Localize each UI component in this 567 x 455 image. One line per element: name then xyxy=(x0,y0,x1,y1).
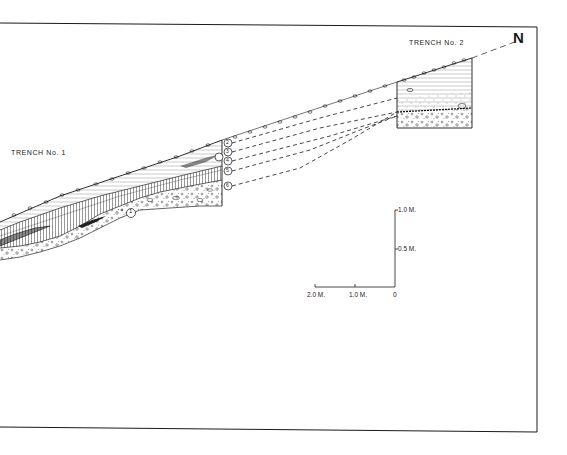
scale-label-v-05m: 0.5 M. xyxy=(398,245,416,252)
trench-1-section xyxy=(0,140,222,260)
scale-label-1m: 1.0 M. xyxy=(349,291,367,298)
layer-number-5: 5 xyxy=(226,167,229,173)
layer-number-3: 3 xyxy=(226,148,229,154)
scale-label-v-1m: 1.0 M. xyxy=(398,206,416,213)
layer-number-2: 2 xyxy=(226,139,229,145)
trench-1-label: TRENCH No. 1 xyxy=(11,149,66,156)
layer-number-1: 1 xyxy=(129,208,132,214)
north-arrow-icon: N xyxy=(513,29,524,46)
layer-marker-3b xyxy=(215,153,223,161)
layer-number-4: 4 xyxy=(226,157,229,163)
scale-label-2m: 2.0 M. xyxy=(307,291,325,298)
section-drawing xyxy=(0,0,567,455)
scale-bar xyxy=(315,210,398,287)
trench-2-section xyxy=(397,58,472,128)
scale-label-0: 0 xyxy=(393,291,397,298)
trench-2-label: TRENCH No. 2 xyxy=(409,39,464,46)
layer-correlation-lines xyxy=(232,98,397,186)
layer-number-6: 6 xyxy=(226,182,229,188)
ground-surface-profile xyxy=(222,40,520,140)
